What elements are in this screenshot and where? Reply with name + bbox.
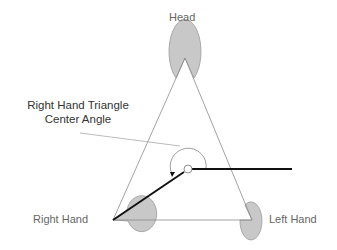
angle-arrowhead — [170, 172, 175, 177]
callout-line-2: Center Angle — [8, 112, 148, 126]
left-hand-label: Left Hand — [269, 213, 317, 225]
callout-line-1: Right Hand Triangle — [8, 98, 148, 112]
callout-leader — [80, 133, 180, 146]
head-label: Head — [169, 11, 195, 23]
right-hand-node — [113, 196, 157, 232]
left-hand-node — [240, 202, 262, 240]
head-node — [169, 20, 201, 78]
right-hand-label: Right Hand — [33, 213, 88, 225]
center-point — [184, 165, 192, 173]
callout-label: Right Hand Triangle Center Angle — [8, 98, 148, 126]
edge-head-left-hand — [185, 58, 252, 220]
